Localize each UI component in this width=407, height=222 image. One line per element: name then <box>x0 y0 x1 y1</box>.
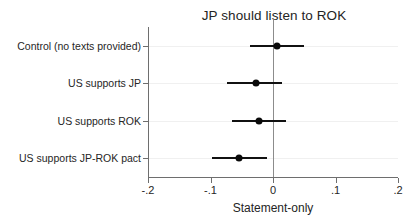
point-estimate-marker <box>256 117 263 124</box>
x-axis-tick <box>336 178 337 183</box>
forest-plot-figure: JP should listen to ROK Control (no text… <box>0 0 407 222</box>
point-estimate-marker <box>274 42 281 49</box>
point-estimate-marker <box>236 155 243 162</box>
x-axis-tick <box>211 178 212 183</box>
x-axis-tick <box>273 178 274 183</box>
y-axis-tick-label: US supports JP-ROK pact <box>19 152 141 164</box>
y-axis-tick-label: US supports JP <box>68 77 141 89</box>
plot-area <box>148 27 398 177</box>
y-axis-tick <box>143 121 148 122</box>
x-axis-tick-label: .1 <box>331 184 340 196</box>
y-axis-tick-label: US supports ROK <box>58 115 141 127</box>
x-axis-tick-label: .2 <box>393 184 402 196</box>
x-axis-tick-label: -.2 <box>142 184 155 196</box>
x-axis-tick <box>398 178 399 183</box>
y-axis-tick <box>143 46 148 47</box>
x-axis-tick-label: 0 <box>270 184 276 196</box>
y-axis-label-group: Control (no texts provided)US supports J… <box>0 0 141 222</box>
x-axis-tick-label: -.1 <box>204 184 217 196</box>
y-axis-spine <box>148 27 149 178</box>
y-axis-tick <box>143 83 148 84</box>
x-axis-tick <box>148 178 149 183</box>
y-axis-tick <box>143 158 148 159</box>
chart-title: JP should listen to ROK <box>148 8 400 23</box>
y-axis-tick-label: Control (no texts provided) <box>17 40 141 52</box>
point-estimate-marker <box>253 80 260 87</box>
x-axis-title: Statement-only <box>148 201 398 215</box>
